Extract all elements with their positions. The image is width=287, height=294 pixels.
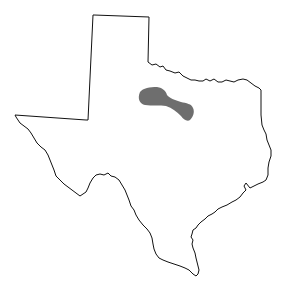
texas-outline bbox=[15, 15, 271, 276]
map-canvas bbox=[0, 0, 287, 294]
